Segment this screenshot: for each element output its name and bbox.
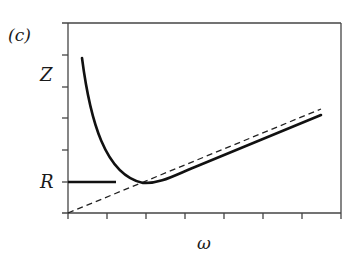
x-axis-label-omega: ω xyxy=(197,235,211,252)
impedance-curve xyxy=(82,58,321,183)
asymptote-dashed-line xyxy=(68,109,321,213)
y-axis-label-r: R xyxy=(40,173,54,191)
y-ticks xyxy=(62,55,68,182)
x-ticks xyxy=(107,213,302,219)
panel-label: (c) xyxy=(8,27,31,44)
y-axis-label-z: Z xyxy=(40,66,53,84)
plot-area xyxy=(0,0,363,260)
axes-frame xyxy=(62,23,341,219)
impedance-figure: (c) Z R ω xyxy=(0,0,363,260)
